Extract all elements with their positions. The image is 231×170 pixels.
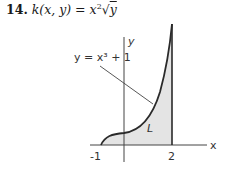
tick-label-2: 2 [168,150,175,163]
tick-label-neg1: -1 [90,150,101,163]
x-axis-label: x [210,139,217,152]
region-label: L [147,122,153,135]
curve-leader-line [100,66,153,104]
curve-label: y = x³ + 1 [74,51,131,64]
region-diagram: y = x³ + 1 y x L -1 2 [0,0,231,170]
y-axis-label: y [127,35,135,48]
